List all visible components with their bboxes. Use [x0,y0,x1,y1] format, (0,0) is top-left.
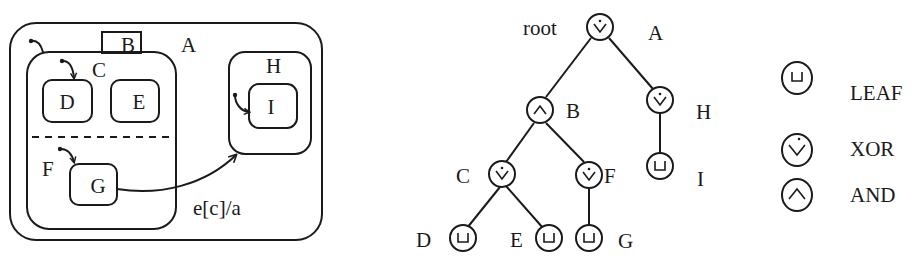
default-entry-d [62,61,74,78]
tree-node-e [536,225,562,251]
default-entry-b [31,41,43,52]
tree-label-b: B [566,99,580,123]
tree-label-g: G [618,229,633,253]
tree-node-b [527,97,553,123]
tree-root-label: root [523,16,557,40]
xor-icon [489,161,515,187]
xor-icon [576,162,602,188]
state-c-label: C [92,58,106,82]
tree-node-c [489,161,515,187]
xor-icon [587,14,613,40]
state-f-label: F [42,157,54,181]
legend-label-leaf: LEAF [850,81,903,105]
legend: LEAF XOR AND [782,62,903,211]
leaf-icon [450,225,476,251]
and-icon [782,179,812,211]
tree-node-g [576,225,602,251]
tree-node-f [576,162,602,188]
tree-label-f: F [604,164,616,188]
xor-icon [647,87,673,113]
state-h-label: H [266,54,281,78]
state-g-label: G [90,174,105,198]
tree-edges [467,38,660,228]
tree-label-e: E [510,228,523,252]
and-icon [527,97,553,123]
state-a-label: A [181,33,197,57]
tree-label-h: H [696,100,711,124]
tree-label-i: I [697,167,704,191]
initial-dot-icon [233,93,237,97]
default-entry-i [235,95,249,112]
legend-item-xor: XOR [782,134,894,166]
legend-label-and: AND [850,183,896,207]
legend-item-leaf: LEAF [782,62,903,105]
initial-dot-icon [58,147,62,151]
tree-node-d [450,225,476,251]
tree-node-a [587,14,613,40]
and-xor-tree: root A B H C [416,14,711,253]
tree-node-i [647,153,673,179]
tree-label-c: C [456,164,470,188]
leaf-icon [576,225,602,251]
state-i-label: I [268,95,275,119]
tree-label-d: D [416,228,431,252]
transition-label: e[c]/a [193,196,241,220]
tree-node-h [647,87,673,113]
state-b-label: B [121,33,135,57]
state-d-label: D [59,90,74,114]
statechart: A B C D E F G H I e[c]/a [10,23,322,240]
state-e-label: E [133,90,146,114]
diagram-canvas: A B C D E F G H I e[c]/a [0,0,917,265]
default-entry-g [60,149,74,162]
initial-dot-icon [29,39,33,43]
leaf-icon [647,153,673,179]
tree-label-a: A [648,21,664,45]
leaf-icon [782,62,812,94]
legend-label-xor: XOR [850,137,894,161]
xor-icon [782,134,812,166]
leaf-icon [536,225,562,251]
legend-item-and: AND [782,179,896,211]
initial-dot-icon [60,59,64,63]
